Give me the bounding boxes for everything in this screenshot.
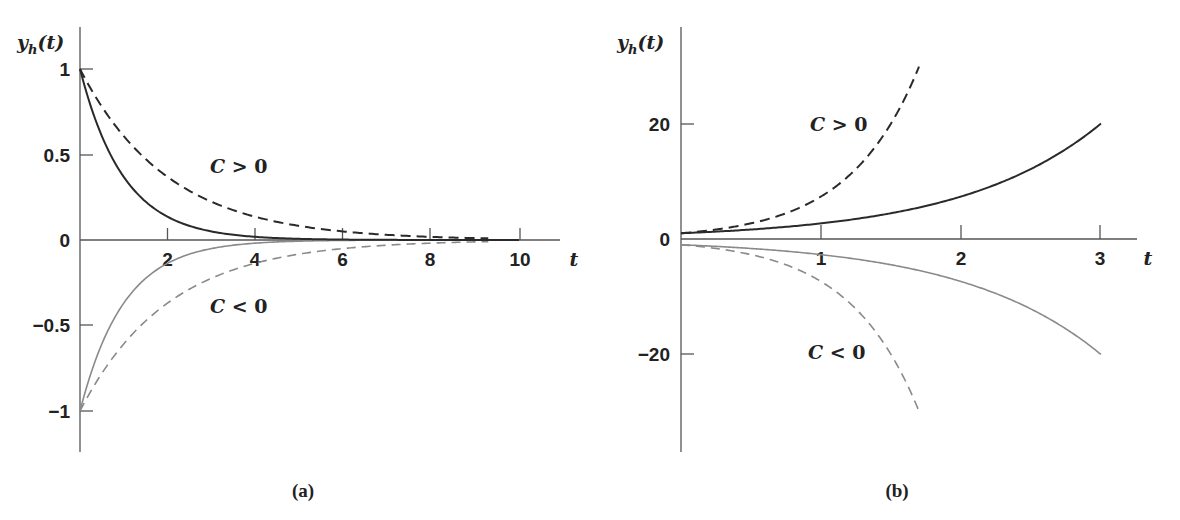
panel-b: 20 0 −20 1 2 3 yh(t) t C > 0 C < 0 (b) [616,27,1153,502]
y-tick-label: 20 [649,114,670,135]
x-axis-label-b: t [1144,247,1153,269]
x-tick-label: 2 [956,248,967,269]
y-tick-label: −1 [48,401,70,422]
figure: 1 0.5 0 −0.5 −1 2 4 6 8 10 yh(t) t C > 0… [0,0,1180,520]
curve-b-pos-dashed [681,67,919,234]
x-tick-label: 4 [250,249,261,270]
annotation-c-positive-a: C > 0 [210,155,268,177]
y-axis-label-b: yh(t) [616,31,664,57]
x-tick-label: 3 [1095,248,1106,269]
x-tick-label: 6 [337,249,348,270]
annotation-c-negative-b: C < 0 [808,341,866,363]
caption-b: (b) [885,480,908,502]
y-tick-label: 0 [59,230,70,251]
curve-a-pos-dashed [80,69,488,238]
annotation-c-negative-a: C < 0 [210,295,268,317]
caption-a: (a) [292,480,314,502]
y-tick-label: 1 [59,59,70,80]
x-axis-label-a: t [570,248,579,270]
x-tick-label: 8 [425,249,436,270]
y-tick-label: 0.5 [44,145,71,166]
x-tick-label: 1 [816,248,827,269]
curve-a-pos-solid [80,69,519,240]
curve-b-neg-dashed [681,245,919,412]
y-axis-label-a: yh(t) [16,31,64,57]
x-tick-label: 2 [162,249,173,270]
curve-b-neg-solid [681,245,1101,355]
curve-a-neg-solid [80,240,519,411]
y-tick-label: −0.5 [32,315,70,336]
panel-a: 1 0.5 0 −0.5 −1 2 4 6 8 10 yh(t) t C > 0… [16,27,579,502]
y-tick-label: 0 [659,229,670,250]
x-tick-label: 10 [509,249,530,270]
y-tick-label: −20 [638,344,670,365]
curve-b-pos-solid [681,124,1101,234]
x-ticks-b [821,225,1100,239]
annotation-c-positive-b: C > 0 [810,113,868,135]
